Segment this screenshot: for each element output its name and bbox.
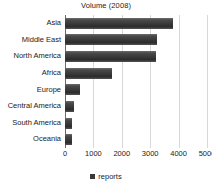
bar-row[interactable] — [65, 32, 207, 49]
category-label: Asia — [0, 15, 61, 32]
bar-row[interactable] — [65, 98, 207, 115]
plot-area — [65, 15, 207, 148]
category-label: South America — [0, 115, 61, 132]
bar-row[interactable] — [65, 115, 207, 132]
chart-title: Volume (2008) — [0, 1, 212, 10]
category-label: North America — [0, 48, 61, 65]
value-tick-label: 0 — [63, 149, 67, 158]
category-label: Central America — [0, 98, 61, 115]
bar-series-reports — [65, 15, 207, 148]
bar-row[interactable] — [65, 82, 207, 99]
category-label: Oceania — [0, 131, 61, 148]
category-label: Middle East — [0, 32, 61, 49]
legend-swatch-icon — [90, 174, 95, 179]
bar-chart: Volume (2008) AsiaMiddle EastNorth Ameri… — [0, 0, 212, 186]
chart-legend: reports — [0, 172, 212, 181]
category-axis-labels: AsiaMiddle EastNorth AmericaAfricaEurope… — [0, 15, 61, 148]
value-tick-label: 1000 — [85, 149, 102, 158]
bar[interactable] — [65, 134, 72, 145]
category-label: Africa — [0, 65, 61, 82]
bar[interactable] — [65, 51, 156, 62]
bar[interactable] — [65, 18, 173, 29]
bar[interactable] — [65, 118, 72, 129]
bar[interactable] — [65, 84, 80, 95]
bar-row[interactable] — [65, 65, 207, 82]
bar-row[interactable] — [65, 15, 207, 32]
bar-row[interactable] — [65, 131, 207, 148]
bar[interactable] — [65, 101, 74, 112]
category-label: Europe — [0, 82, 61, 99]
gridline — [207, 15, 208, 148]
value-tick-label: 5000 — [199, 149, 212, 158]
bar-row[interactable] — [65, 48, 207, 65]
bar[interactable] — [65, 68, 112, 79]
bar[interactable] — [65, 34, 157, 45]
value-tick-label: 2000 — [113, 149, 130, 158]
legend-label: reports — [98, 172, 121, 181]
value-tick-label: 3000 — [142, 149, 159, 158]
value-axis-ticks: 010002000300040005000 — [65, 149, 207, 161]
value-tick-label: 4000 — [170, 149, 187, 158]
